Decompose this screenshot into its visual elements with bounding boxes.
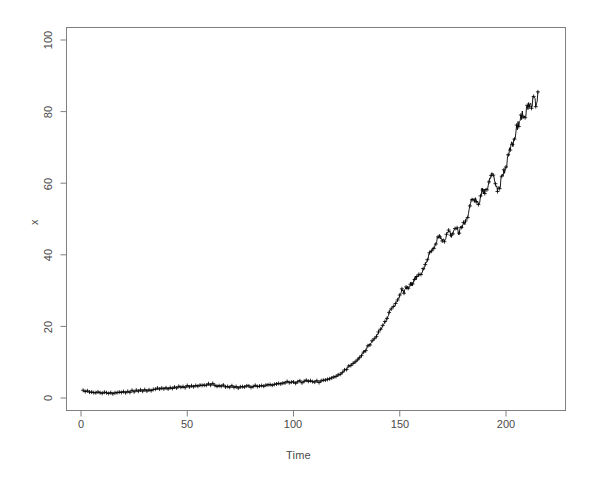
x-axis-title: Time — [0, 449, 597, 461]
series-markers-x — [81, 90, 540, 396]
y-tick-label-60: 60 — [42, 169, 54, 199]
y-axis-tick-marks — [61, 40, 67, 398]
y-tick-label-80: 80 — [42, 97, 54, 127]
x-tick-label-50: 50 — [167, 418, 207, 430]
plot-canvas — [0, 0, 597, 482]
data-series-layer — [81, 90, 540, 396]
x-tick-label-0: 0 — [61, 418, 101, 430]
x-tick-label-200: 200 — [486, 418, 526, 430]
x-axis-tick-marks — [81, 411, 506, 417]
series-line-x — [83, 92, 538, 394]
y-tick-label-20: 20 — [42, 312, 54, 342]
y-tick-label-40: 40 — [42, 240, 54, 270]
x-tick-label-100: 100 — [273, 418, 313, 430]
y-tick-label-0: 0 — [42, 383, 54, 413]
y-tick-label-100: 100 — [42, 25, 54, 55]
y-axis-title: x — [28, 219, 40, 225]
x-tick-label-150: 150 — [380, 418, 420, 430]
plot-figure: 0 20 40 60 80 100 0 50 100 150 200 Time … — [0, 0, 597, 482]
plot-frame-box — [67, 28, 566, 411]
